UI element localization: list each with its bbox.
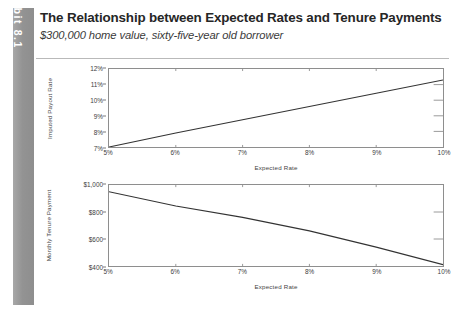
y-tick-label: $800 xyxy=(89,208,103,215)
y-axis-label-text: Imputed Payout Rate xyxy=(46,78,53,139)
plot-line-top xyxy=(109,69,443,147)
exhibit-tab: Exhibit 8.1 xyxy=(13,8,34,305)
x-tick-label: 10% xyxy=(438,149,451,156)
x-axis-title-top: Expected Rate xyxy=(108,164,444,171)
plot-line-bottom xyxy=(109,185,443,266)
plot-area-bottom xyxy=(108,184,444,267)
y-tick-label: 10% xyxy=(90,97,103,104)
x-tick-label: 5% xyxy=(103,149,112,156)
y-tick-label: $1,000 xyxy=(83,181,103,188)
x-tick-label: 9% xyxy=(372,268,381,275)
y-axis-title-top: Imputed Payout Rate xyxy=(43,68,55,148)
header-divider xyxy=(36,58,449,59)
y-axis-label-text: Monthly Tenure Payment xyxy=(46,190,53,262)
y-tick-labels-top: 7%8%9%10%11%12% xyxy=(56,68,106,148)
y-tick-mark xyxy=(103,132,106,133)
y-tick-mark xyxy=(103,211,106,212)
y-tick-mark xyxy=(103,184,106,185)
x-tick-label: 7% xyxy=(238,268,247,275)
x-tick-label: 7% xyxy=(238,149,247,156)
x-tick-labels-bottom: 5%6%7%8%9%10% xyxy=(108,268,444,278)
x-axis-title-bottom: Expected Rate xyxy=(108,283,444,290)
y-tick-label: 7% xyxy=(94,145,103,152)
y-tick-label: $400 xyxy=(89,264,103,271)
y-tick-mark xyxy=(103,84,106,85)
y-tick-mark xyxy=(103,100,106,101)
y-tick-label: 8% xyxy=(94,129,103,136)
y-tick-mark xyxy=(103,68,106,69)
exhibit-page: Exhibit 8.1 The Relationship between Exp… xyxy=(0,0,455,317)
x-tick-label: 6% xyxy=(171,268,180,275)
y-tick-labels-bottom: $400$600$800$1,000 xyxy=(56,184,106,267)
y-tick-label: $600 xyxy=(89,236,103,243)
x-tick-label: 10% xyxy=(438,268,451,275)
plot-area-top xyxy=(108,68,444,148)
y-axis-title-bottom: Monthly Tenure Payment xyxy=(43,184,55,267)
y-tick-label: 11% xyxy=(91,81,103,88)
x-tick-label: 6% xyxy=(171,149,180,156)
y-tick-mark xyxy=(103,239,106,240)
y-tick-label: 12% xyxy=(90,65,103,72)
chart-monthly-tenure-payment: Monthly Tenure Payment $400$600$800$1,00… xyxy=(36,180,449,295)
y-tick-mark xyxy=(103,116,106,117)
x-tick-label: 5% xyxy=(103,268,112,275)
exhibit-header: The Relationship between Expected Rates … xyxy=(40,10,448,41)
page-title: The Relationship between Expected Rates … xyxy=(40,10,448,26)
y-tick-label: 9% xyxy=(94,113,103,120)
x-tick-labels-top: 5%6%7%8%9%10% xyxy=(108,149,444,159)
chart-imputed-payout-rate: Imputed Payout Rate 7%8%9%10%11%12% 5%6%… xyxy=(36,64,449,176)
page-subtitle: $300,000 home value, sixty-five-year old… xyxy=(40,29,448,41)
x-tick-label: 8% xyxy=(305,149,314,156)
x-tick-label: 9% xyxy=(372,149,381,156)
x-tick-label: 8% xyxy=(305,268,314,275)
exhibit-tab-label: Exhibit 8.1 xyxy=(12,0,24,49)
